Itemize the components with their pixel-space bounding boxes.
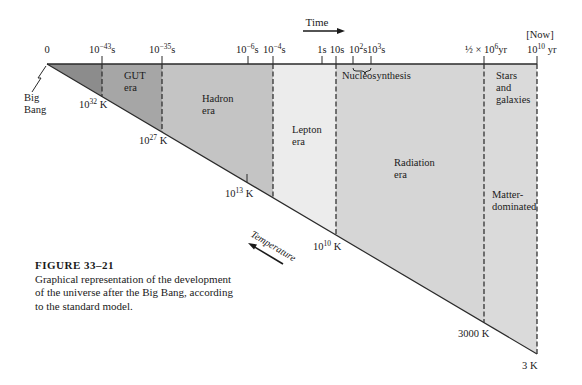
hadron-era-region [162, 64, 273, 198]
figure-caption: FIGURE 33–21 Graphical representation of… [35, 259, 235, 313]
figure-number: FIGURE 33–21 [35, 259, 235, 273]
svg-text:Stars: Stars [496, 70, 517, 81]
svg-text:Nucleosynthesis: Nucleosynthesis [342, 70, 411, 81]
svg-text:Hadron: Hadron [202, 93, 234, 104]
now-label: [Now] [526, 29, 553, 40]
lepton-era-region [273, 64, 336, 235]
svg-text:10s: 10s [330, 44, 345, 55]
svg-text:3 K: 3 K [522, 360, 538, 371]
svg-text:10−4s: 10−4s [263, 42, 286, 55]
svg-text:3000 K: 3000 K [458, 328, 490, 339]
svg-text:1010 yr: 1010 yr [527, 42, 557, 55]
time-ticks [102, 56, 537, 64]
svg-text:1013 K: 1013 K [225, 186, 254, 199]
svg-text:Matter-: Matter- [492, 189, 524, 200]
svg-text:era: era [124, 82, 137, 93]
svg-text:era: era [202, 105, 215, 116]
svg-text:era: era [292, 136, 305, 147]
svg-text:Radiation: Radiation [394, 157, 436, 168]
big-bang-label-2: Bang [24, 104, 47, 115]
svg-text:10−35s: 10−35s [149, 42, 175, 55]
svg-text:and: and [496, 82, 512, 93]
time-tick-labels: 0 10−43s 10−35s 10−6s 10−4s 1s 10s 102s … [44, 29, 557, 55]
svg-text:1027 K: 1027 K [139, 133, 168, 146]
svg-text:1s: 1s [317, 44, 326, 55]
big-bang-timeline-diagram: Time 0 10−43s 10−35s 10−6s 10−4s 1s 10s … [0, 0, 582, 385]
time-label: Time [306, 16, 329, 28]
svg-text:10−6s: 10−6s [236, 42, 259, 55]
lightning-icon [32, 66, 46, 92]
radiation-era-region [336, 64, 484, 323]
svg-text:102s: 102s [349, 42, 367, 55]
svg-text:0: 0 [44, 44, 49, 55]
svg-text:1010 K: 1010 K [313, 239, 342, 252]
svg-text:Lepton: Lepton [292, 124, 322, 135]
time-arrow-head [337, 28, 345, 34]
svg-text:103s: 103s [367, 42, 385, 55]
svg-text:dominated: dominated [492, 201, 537, 212]
svg-text:10−43s: 10−43s [89, 42, 115, 55]
svg-text:galaxies: galaxies [496, 94, 530, 105]
figure-caption-text: Graphical representation of the developm… [35, 273, 235, 314]
svg-text:GUT: GUT [124, 70, 146, 81]
svg-text:½ × 106yr: ½ × 106yr [465, 42, 508, 55]
svg-text:era: era [394, 169, 407, 180]
svg-text:1032 K: 1032 K [79, 97, 108, 110]
big-bang-label: Big [24, 92, 40, 103]
temperature-arrow-head [248, 243, 257, 250]
